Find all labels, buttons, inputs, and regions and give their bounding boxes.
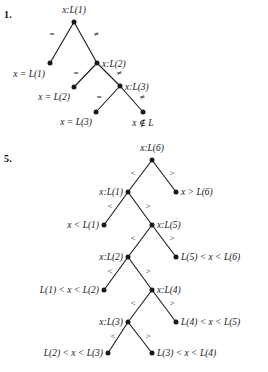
tree-internal-node: [72, 20, 77, 25]
tree-leaf-node: [48, 61, 53, 66]
leaf-node-label: L(2) < x < L(3): [44, 348, 103, 358]
leaf-node-label: x = L(1): [13, 69, 45, 79]
internal-node-label: x:L(1): [62, 5, 86, 15]
tree-leaf-node: [94, 110, 99, 115]
tree-leaf-node: [102, 288, 107, 293]
decision-tree-figure-sheet: 1.=≠=≠=≠x:L(1)x = L(1)x:L(2)x = L(2)x:L(…: [0, 0, 268, 372]
problem-number: 5.: [4, 153, 12, 164]
internal-node-label: x:L(3): [125, 82, 149, 92]
edge-label: <: [107, 201, 113, 211]
leaf-node-label: x ∉ L: [132, 117, 153, 128]
edge-label: ≠: [94, 29, 99, 39]
internal-node-label: x:L(4): [157, 285, 181, 295]
tree-leaf-node: [174, 255, 179, 260]
edge-label: <: [130, 233, 136, 243]
tree-leaf-node: [106, 351, 111, 356]
edge-label: =: [96, 92, 102, 102]
edge-label: >: [145, 201, 151, 211]
edge-label: >: [169, 233, 175, 243]
edge-label: ≠: [140, 92, 145, 102]
edge-label: >: [169, 298, 175, 308]
tree-internal-node: [126, 320, 131, 325]
tree-internal-node: [118, 84, 123, 89]
leaf-node-label: x = L(3): [60, 117, 92, 127]
internal-node-label: x:L(2): [99, 252, 123, 262]
tree-internal-node: [126, 255, 131, 260]
tree-internal-node: [126, 190, 131, 195]
leaf-node-label: x < L(1): [67, 220, 99, 230]
edge-label: >: [169, 168, 175, 178]
tree-leaf-node: [72, 85, 77, 90]
tree-leaf-node: [150, 351, 155, 356]
tree-internal-node: [150, 223, 155, 228]
problem-number: 1.: [4, 9, 12, 20]
internal-node-label: x:L(5): [157, 220, 181, 230]
leaf-node-label: L(4) < x < L(5): [181, 317, 240, 327]
internal-node-label: x:L(6): [140, 143, 164, 153]
tree-leaf-node: [174, 190, 179, 195]
leaf-node-label: L(5) < x < L(6): [181, 252, 240, 262]
tree-internal-node: [150, 158, 155, 163]
internal-node-label: x:L(1): [99, 187, 123, 197]
tree-leaf-node: [102, 223, 107, 228]
leaf-node-label: L(1) < x < L(2): [40, 285, 99, 295]
leaf-node-label: x > L(6): [181, 187, 213, 197]
edge-label: <: [130, 168, 136, 178]
tree-internal-node: [95, 61, 100, 66]
internal-node-label: x:L(2): [102, 59, 126, 69]
tree-internal-node: [150, 288, 155, 293]
edge-label: <: [107, 266, 113, 276]
edge-label: >: [145, 331, 151, 341]
leaf-node-label: x = L(2): [38, 92, 70, 102]
edge-label: ≠: [117, 68, 122, 78]
internal-node-label: x:L(3): [99, 317, 123, 327]
edge-label: <: [130, 298, 136, 308]
edge-label: >: [145, 266, 151, 276]
tree-leaf-node: [141, 110, 146, 115]
edge-label: =: [73, 68, 79, 78]
tree-leaf-node: [174, 320, 179, 325]
edge-label: <: [110, 331, 116, 341]
leaf-node-label: L(3) < x < L(4): [157, 348, 216, 358]
edge-label: =: [49, 29, 55, 39]
